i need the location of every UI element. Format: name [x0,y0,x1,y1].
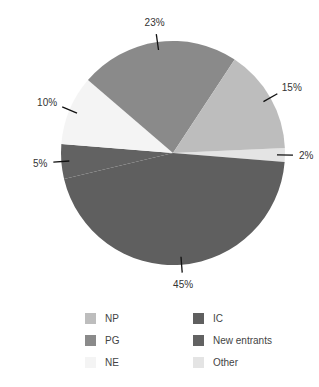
legend-swatch-ic [193,313,204,324]
legend: NP PG NE IC New entrants Other [0,0,319,387]
legend-swatch-pg [85,335,96,346]
legend-label-pg: PG [105,335,119,346]
legend-item-pg: PG [85,335,119,346]
legend-item-new-entrants: New entrants [193,335,272,346]
legend-label-ic: IC [213,313,223,324]
legend-label-new-entrants: New entrants [213,335,272,346]
legend-label-ne: NE [105,357,119,368]
legend-item-ne: NE [85,357,119,368]
legend-swatch-ne [85,357,96,368]
legend-label-other: Other [213,357,238,368]
legend-item-np: NP [85,313,119,324]
legend-swatch-np [85,313,96,324]
legend-swatch-other [193,357,204,368]
legend-item-ic: IC [193,313,223,324]
legend-swatch-new-entrants [193,335,204,346]
legend-label-np: NP [105,313,119,324]
legend-item-other: Other [193,357,238,368]
